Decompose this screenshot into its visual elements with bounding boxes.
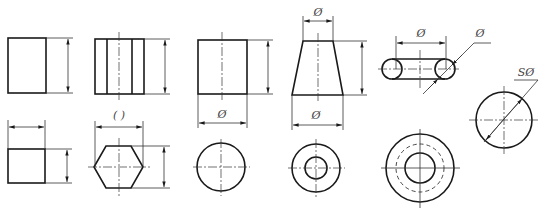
- cylinder-dia-label: Ø: [216, 108, 227, 121]
- rect-prism-front: [8, 38, 73, 93]
- frustum-top-dia-label: Ø: [312, 6, 323, 19]
- frustum-top: [288, 139, 345, 197]
- cylinder-front: Ø: [198, 32, 273, 128]
- torus-top: [381, 129, 460, 208]
- rect-prism-top: [8, 120, 72, 183]
- sphere: SØ: [469, 66, 540, 154]
- prism-ref-label: ( ): [113, 109, 125, 122]
- sphere-dia-label: SØ: [518, 66, 536, 79]
- hex-prism-top: ( ): [88, 109, 170, 196]
- torus-front: Ø Ø: [378, 27, 491, 94]
- cylinder-top: [193, 139, 250, 196]
- hex-prism-front: [95, 32, 170, 100]
- frustum-bottom-dia-label: Ø: [310, 109, 321, 122]
- torus-tube-dia-label: Ø: [474, 27, 485, 40]
- torus-center-dia-label: Ø: [415, 27, 426, 40]
- dimensioning-diagram: ( ) Ø Ø Ø: [0, 0, 546, 211]
- frustum-front: Ø Ø: [292, 6, 367, 130]
